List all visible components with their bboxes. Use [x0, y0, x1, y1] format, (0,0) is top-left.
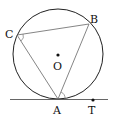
- chord-ca: [17, 35, 58, 99]
- center-point: [56, 53, 59, 56]
- label-b: B: [90, 13, 98, 26]
- point-t: [91, 98, 94, 101]
- label-c: C: [5, 28, 13, 41]
- label-t: T: [88, 104, 96, 117]
- angle-mark-c: [21, 34, 23, 41]
- angle-mark-a: [61, 92, 65, 99]
- chord-cb: [17, 24, 89, 35]
- chord-ba: [58, 24, 89, 99]
- label-o: O: [53, 60, 62, 73]
- label-a: A: [52, 104, 62, 117]
- geometry-diagram: C B O A T: [0, 0, 114, 119]
